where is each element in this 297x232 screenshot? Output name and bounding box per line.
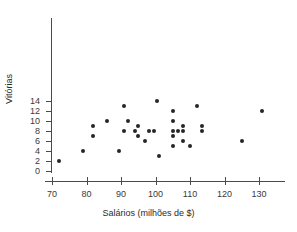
y-tick-mark — [46, 131, 52, 132]
y-tick-mark — [46, 121, 52, 122]
data-point — [195, 104, 199, 108]
data-point — [188, 144, 192, 148]
data-point — [181, 139, 185, 143]
data-point — [200, 129, 204, 133]
data-point — [171, 134, 175, 138]
data-point — [91, 124, 95, 128]
x-tick-mark — [190, 177, 191, 185]
y-tick-label: 8 — [14, 127, 40, 136]
y-tick-label: 10 — [14, 117, 40, 126]
y-tick-label: 4 — [14, 147, 40, 156]
y-axis-title: Vitórias — [4, 54, 14, 124]
data-point — [133, 129, 137, 133]
y-tick-mark — [46, 151, 52, 152]
data-point — [126, 119, 130, 123]
x-tick-label: 90 — [108, 190, 134, 199]
x-tick-label: 80 — [74, 190, 100, 199]
data-point — [171, 144, 175, 148]
y-tick-mark — [46, 141, 52, 142]
y-tick-mark — [46, 111, 52, 112]
y-tick-label: 0 — [14, 167, 40, 176]
data-point — [155, 99, 159, 103]
x-axis-line — [45, 181, 285, 182]
x-tick-label: 130 — [246, 190, 272, 199]
x-tick-mark — [87, 177, 88, 185]
y-tick-label: 2 — [14, 157, 40, 166]
scatter-plot-figure: 02468101214 708090100110120130 Salários … — [0, 0, 297, 232]
data-point — [171, 119, 175, 123]
y-axis-line — [51, 18, 52, 173]
data-point — [122, 129, 126, 133]
data-point — [105, 119, 109, 123]
data-point — [181, 129, 185, 133]
data-point — [152, 129, 156, 133]
y-tick-mark — [46, 101, 52, 102]
data-point — [117, 149, 121, 153]
data-point — [136, 134, 140, 138]
x-tick-mark — [156, 177, 157, 185]
data-point — [147, 129, 151, 133]
data-point — [136, 124, 140, 128]
y-tick-label: 14 — [14, 97, 40, 106]
plot-area: 02468101214 708090100110120130 Salários … — [0, 0, 297, 232]
x-axis-title: Salários (milhões de $) — [0, 208, 297, 218]
x-tick-label: 120 — [212, 190, 238, 199]
data-point — [171, 109, 175, 113]
data-point — [171, 129, 175, 133]
x-tick-label: 100 — [143, 190, 169, 199]
x-tick-mark — [52, 177, 53, 185]
data-point — [91, 134, 95, 138]
data-point — [81, 149, 85, 153]
x-tick-mark — [121, 177, 122, 185]
y-tick-mark — [46, 161, 52, 162]
data-point — [200, 124, 204, 128]
data-point — [57, 159, 61, 163]
x-tick-label: 70 — [39, 190, 65, 199]
data-point — [181, 124, 185, 128]
y-tick-label: 12 — [14, 107, 40, 116]
data-point — [157, 154, 161, 158]
data-point — [143, 139, 147, 143]
y-tick-mark — [46, 171, 52, 172]
data-point — [240, 139, 244, 143]
data-point — [260, 109, 264, 113]
data-point — [176, 129, 180, 133]
x-tick-mark — [259, 177, 260, 185]
y-tick-label: 6 — [14, 137, 40, 146]
x-tick-mark — [225, 177, 226, 185]
data-point — [122, 104, 126, 108]
x-tick-label: 110 — [177, 190, 203, 199]
